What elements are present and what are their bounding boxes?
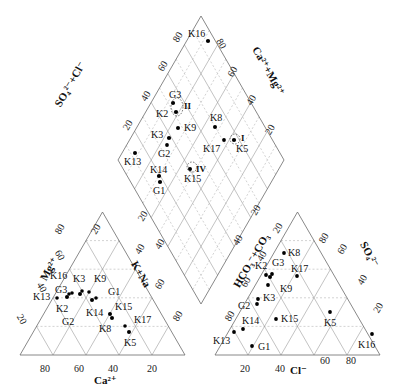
- label-K8-a: K8: [288, 247, 300, 258]
- label-K17-d: K17: [203, 143, 220, 154]
- label-K17-a: K17: [291, 263, 308, 274]
- label-G3-c: G3: [55, 284, 67, 295]
- label-G1-a: G1: [258, 341, 270, 352]
- tick-ur-20: 20: [262, 122, 277, 136]
- axis-cl: Cl⁻: [290, 364, 307, 376]
- label-K2-a: K2: [255, 260, 267, 271]
- label-K13-a: K13: [213, 335, 230, 346]
- tick-ca-80: 80: [40, 363, 50, 374]
- tick-so4-60: 60: [335, 242, 350, 256]
- tick-cl-40: 40: [275, 363, 285, 374]
- tick-kna-40: 40: [132, 242, 147, 256]
- label-K3-c: K3: [73, 273, 85, 284]
- label-K15-a: K15: [281, 313, 298, 324]
- tick-cl-60: 60: [320, 355, 330, 366]
- label-K15-d: K15: [184, 173, 201, 184]
- point-K13-d: [133, 151, 137, 155]
- label-K17-c: K17: [134, 314, 151, 325]
- label-G2-c: G2: [62, 316, 74, 327]
- point-K5-d: [232, 138, 236, 142]
- tick-ca-40: 40: [108, 363, 118, 374]
- label-K3-d: K3: [151, 129, 163, 140]
- label-K3-a: K3: [263, 292, 275, 303]
- label-K5-c: K5: [124, 337, 136, 348]
- label-K15-c: K15: [115, 301, 132, 312]
- tick-ur-80: 80: [214, 37, 229, 51]
- tick-ur-60: 60: [225, 65, 240, 79]
- tick-ur-40: 40: [244, 93, 259, 107]
- label-K14-a: K14: [242, 315, 259, 326]
- label-K8-c: K8: [99, 323, 111, 334]
- label-G2-d: G2: [158, 148, 170, 159]
- label-G3-a: G3: [272, 257, 284, 268]
- label-K8-d: K8: [210, 112, 222, 123]
- tick-ul-60: 60: [155, 59, 170, 73]
- label-K9-d: K9: [184, 122, 196, 133]
- group-II-label: II: [184, 101, 192, 111]
- label-G2-a: G2: [238, 300, 250, 311]
- piper-diagram: 80 60 40 20 80 60 40 20 20 40 40 20 80 6…: [0, 0, 402, 385]
- label-K16-c: K16: [50, 270, 67, 281]
- point-K8-d: [213, 125, 217, 129]
- tick-kna-60: 60: [152, 277, 167, 291]
- group-I-label: I: [241, 133, 245, 143]
- label-K14-d: K14: [150, 164, 167, 175]
- tick-lr-20: 20: [248, 203, 263, 217]
- tick-ul-20: 20: [120, 118, 135, 132]
- label-K13-c: K13: [33, 291, 50, 302]
- axis-so4-cl: SO₄²⁻+Cl⁻: [52, 59, 88, 109]
- label-G1-c: G1: [108, 286, 120, 297]
- tick-ul-80: 80: [170, 30, 185, 44]
- point-G2-d: [165, 143, 169, 147]
- tick-cl-80: 80: [346, 355, 356, 366]
- label-K5-a: K5: [324, 317, 336, 328]
- point-K3-d: [167, 136, 171, 140]
- label-K2-c: K2: [56, 303, 68, 314]
- tick-ca-60: 60: [74, 363, 84, 374]
- tick-so4-40: 40: [355, 273, 370, 287]
- point-K2-d: [174, 110, 178, 114]
- label-K5-d: K5: [236, 143, 248, 154]
- label-K16-a: K16: [358, 339, 375, 350]
- tick-ca-20: 20: [147, 363, 157, 374]
- axis-ca-mg: Ca²⁺+Mg²⁺: [250, 44, 287, 97]
- axis-ca: Ca²⁺: [94, 374, 117, 385]
- point-K17-d: [222, 138, 226, 142]
- tick-so4-80: 80: [316, 231, 331, 245]
- label-K16-d: K16: [188, 28, 205, 39]
- tick-so4-20: 20: [371, 301, 386, 315]
- label-G1-d: G1: [153, 185, 165, 196]
- piper-diagram-svg: 80 60 40 20 80 60 40 20 20 40 40 20 80 6…: [0, 0, 402, 385]
- label-K13-d: K13: [124, 156, 141, 167]
- tick-kna-80: 80: [170, 309, 185, 323]
- tick-cl-20: 20: [240, 363, 250, 374]
- tick-hco3-20: 20: [270, 221, 285, 235]
- point-K15-d: [188, 167, 192, 171]
- point-G1-d: [158, 180, 162, 184]
- point-K9-d: [176, 126, 180, 130]
- diamond-points: K16 G3 II K2 K9 K8 K3 G2 K17 I K5 K13 K1…: [124, 28, 248, 196]
- label-K14-c: K14: [86, 307, 103, 318]
- label-K2-d: K2: [156, 108, 168, 119]
- tick-ll-40: 40: [152, 237, 167, 251]
- label-K9-c: K9: [94, 273, 106, 284]
- tick-mg-top-80: 80: [52, 222, 67, 236]
- tick-kna-20: 20: [88, 222, 103, 236]
- tick-lr-40: 40: [230, 233, 245, 247]
- cation-points: K16 K3 K9 G3 G1 K13 K2 K14 K15 G2 K17 K8…: [33, 270, 151, 348]
- point-K16-d: [206, 39, 210, 43]
- tick-ul-40: 40: [138, 89, 153, 103]
- tick-mg-20: 20: [15, 312, 30, 326]
- axis-so4: SO₄²⁻: [358, 239, 382, 269]
- label-K9-a: K9: [280, 283, 292, 294]
